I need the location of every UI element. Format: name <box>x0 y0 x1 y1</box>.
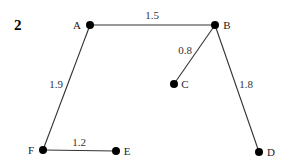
edges-group <box>43 25 259 152</box>
node-b <box>211 21 219 29</box>
node-c <box>170 80 178 88</box>
node-label-c: C <box>181 78 188 90</box>
edge-weight-b-d: 1.8 <box>239 78 253 90</box>
node-label-b: B <box>223 19 230 31</box>
node-d <box>255 148 263 156</box>
node-label-e: E <box>124 145 131 157</box>
node-e <box>112 147 120 155</box>
node-label-a: A <box>73 19 81 31</box>
node-f <box>39 146 47 154</box>
node-a <box>86 21 94 29</box>
edge-weight-a-b: 1.5 <box>145 9 159 21</box>
graph-diagram: 2 1.50.81.81.91.2 ABCDEF <box>0 0 289 168</box>
edge-weight-a-f: 1.9 <box>49 78 63 90</box>
graph-canvas: 2 1.50.81.81.91.2 ABCDEF <box>0 0 289 168</box>
node-label-f: F <box>28 144 34 156</box>
figure-number: 2 <box>14 17 22 33</box>
node-labels-group: ABCDEF <box>28 19 275 158</box>
edge-weight-f-e: 1.2 <box>72 136 86 148</box>
node-label-d: D <box>267 146 275 158</box>
edge-f-e <box>43 150 116 151</box>
edge-weight-b-c: 0.8 <box>178 44 192 56</box>
